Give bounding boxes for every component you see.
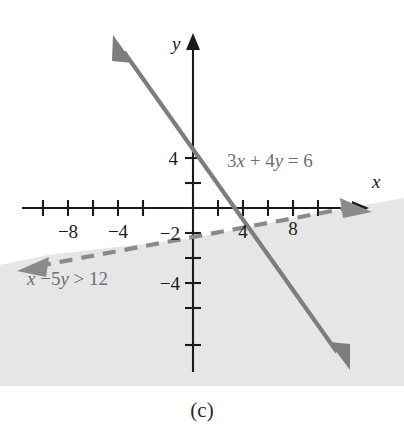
ineq-coef-b: 5 (51, 268, 61, 289)
solid-line-arrowhead-upper (112, 35, 133, 63)
x-tick-label-pos8: 8 (288, 218, 298, 239)
x-tick-label-neg8: −8 (58, 221, 78, 242)
ineq-var-y: y (58, 268, 69, 289)
ineq-const-c: 12 (89, 268, 108, 289)
y-axis-arrowhead (186, 33, 200, 50)
y-tick-label-neg4: −4 (160, 273, 181, 294)
y-axis-label: y (170, 33, 181, 54)
y-tick-label-neg2: −2 (160, 223, 180, 244)
eq-var-y: y (273, 150, 284, 171)
coordinate-plane-svg: x y −8 −4 4 8 4 −2 −4 3x + 4y = 6 x −5y … (0, 0, 404, 400)
eq-coef-b: 4 (265, 150, 275, 171)
figure-caption: (c) (0, 398, 404, 423)
eq-plus: + (245, 150, 265, 171)
y-tick-label-pos4: 4 (169, 148, 179, 169)
graph-figure: x y −8 −4 4 8 4 −2 −4 3x + 4y = 6 x −5y … (0, 0, 404, 400)
x-axis-label: x (371, 171, 381, 192)
solid-line-equation-label: 3x + 4y = 6 (227, 150, 313, 171)
x-tick-label-neg4: −4 (108, 221, 129, 242)
eq-equals: = (283, 150, 303, 171)
x-tick-label-pos4: 4 (238, 221, 248, 242)
figure-page: x y −8 −4 4 8 4 −2 −4 3x + 4y = 6 x −5y … (0, 0, 404, 441)
ineq-gt: > (69, 268, 89, 289)
eq-const-c: 6 (303, 150, 313, 171)
ineq-minus: − (35, 268, 50, 289)
dashed-line-inequality-label: x −5y > 12 (26, 268, 108, 289)
eq-coef-a: 3 (227, 150, 237, 171)
